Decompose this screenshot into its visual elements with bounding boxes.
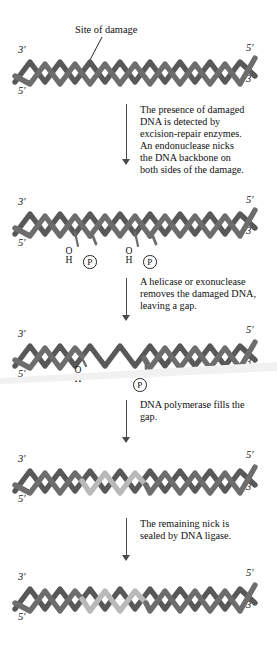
phosphate-marker-2: P bbox=[143, 255, 157, 269]
hydroxyl-h-2: H bbox=[123, 255, 135, 264]
site-of-damage-label: Site of damage bbox=[75, 24, 137, 35]
caption-polymerase: DNA polymerase fills the gap. bbox=[140, 399, 276, 423]
caption-ligase: The remaining nick is sealed by DNA liga… bbox=[140, 518, 276, 542]
stage-damaged-dna: Site of damage 3′ 5′ 5′ 3′ bbox=[0, 0, 277, 105]
dna-duplex-nicked bbox=[12, 202, 262, 250]
flow-arrow-2 bbox=[121, 278, 132, 320]
caption-endonuclease: The presence of damaged DNA is detected … bbox=[140, 104, 276, 177]
flow-arrow-3 bbox=[121, 400, 132, 442]
dna-duplex-sealed bbox=[12, 577, 262, 622]
dna-duplex-filled bbox=[12, 459, 262, 504]
hydroxyl-marker-3: O H bbox=[72, 365, 84, 383]
flow-arrow-1 bbox=[121, 104, 132, 164]
flow-arrow-4 bbox=[121, 518, 132, 560]
stage-filled-dna: 3′ 5′ 5′ 3′ bbox=[0, 443, 277, 528]
hydroxyl-h-3: H bbox=[72, 374, 84, 383]
hydroxyl-marker-1: O H bbox=[63, 246, 75, 264]
hydroxyl-marker-2: O H bbox=[123, 246, 135, 264]
stage-nicked-dna: 3′ 5′ 5′ 3′ O H P O H P bbox=[0, 188, 277, 278]
phosphate-marker-3: P bbox=[133, 378, 147, 392]
caption-helicase: A helicase or exonuclease removes the da… bbox=[140, 276, 276, 312]
phosphate-marker-1: P bbox=[83, 255, 97, 269]
dna-duplex-gapped bbox=[12, 334, 262, 382]
dna-duplex-damaged bbox=[12, 50, 262, 95]
stage-sealed-dna: 3′ 5′ 5′ 3′ bbox=[0, 563, 277, 645]
hydroxyl-h-1: H bbox=[63, 255, 75, 264]
